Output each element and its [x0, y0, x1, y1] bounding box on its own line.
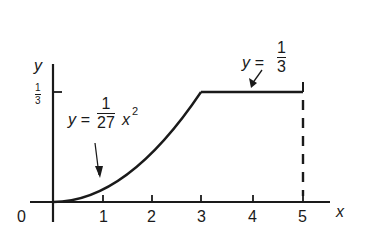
x-tick-4: 4 — [248, 209, 257, 225]
annotation-1-num: 1 — [101, 96, 110, 112]
x-tick-2: 2 — [147, 209, 156, 225]
y-tick-den: 3 — [35, 96, 41, 106]
x-tick-3: 3 — [197, 209, 206, 225]
annotation-2-fraction: 1 3 — [277, 40, 286, 75]
y-axis-label: y — [34, 58, 42, 74]
annotation-1-var: x — [122, 112, 130, 128]
annotation-2-lhs: y = — [242, 55, 264, 71]
plot-canvas — [0, 0, 367, 241]
annotation-2-den: 3 — [277, 59, 286, 75]
x-tick-1: 1 — [99, 209, 108, 225]
x-axis-label: x — [336, 204, 344, 220]
y-tick-num: 1 — [35, 83, 41, 93]
annotation-1-den: 27 — [97, 115, 115, 131]
y-tick-label: 1 3 — [35, 83, 41, 106]
annotation-1-exp: 2 — [132, 106, 138, 117]
annotation-1-lhs: y = — [68, 112, 90, 128]
arrow-1-head — [95, 166, 103, 178]
parabola-curve — [53, 92, 201, 202]
x-tick-0: 0 — [17, 209, 26, 225]
annotation-2-num: 1 — [277, 40, 286, 56]
annotation-1-fraction: 1 27 — [97, 96, 115, 131]
x-tick-5: 5 — [298, 209, 307, 225]
